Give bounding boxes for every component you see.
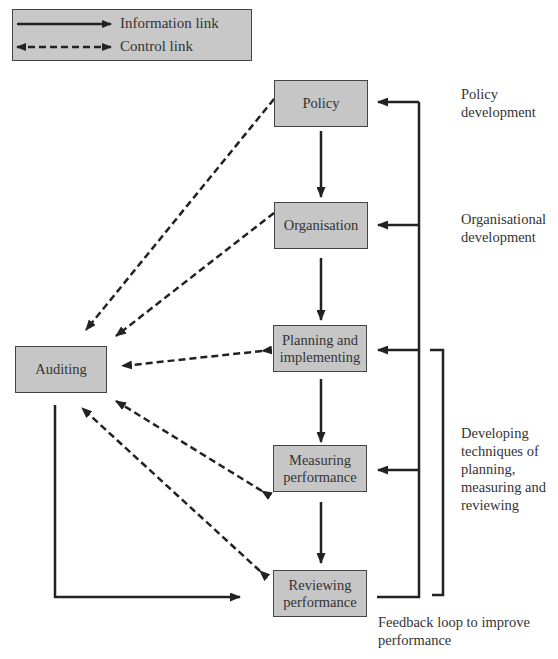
node-measuring-label-1: Measuring (283, 452, 356, 469)
node-measuring-performance: Measuring performance (273, 445, 367, 492)
node-planning-label-1: Planning and (280, 332, 361, 349)
note-line: Feedback loop to improve (378, 613, 530, 631)
note-line: Developing (461, 424, 546, 442)
note-policy-development: Policy development (461, 85, 536, 121)
node-policy: Policy (274, 80, 368, 127)
note-developing-techniques: Developing techniques of planning, measu… (461, 424, 546, 514)
node-reviewing-label-1: Reviewing (283, 577, 356, 594)
note-line: development (461, 228, 546, 246)
note-line: measuring and (461, 478, 546, 496)
information-links (55, 102, 443, 597)
control-links (82, 99, 274, 571)
note-line: Policy (461, 85, 536, 103)
node-organisation: Organisation (274, 202, 368, 249)
node-policy-label: Policy (302, 95, 339, 112)
note-line: reviewing (461, 496, 546, 514)
node-reviewing-label-2: performance (283, 594, 356, 611)
note-line: Organisational (461, 210, 546, 228)
note-line: performance (378, 631, 530, 649)
node-measuring-label-2: performance (283, 469, 356, 486)
node-auditing: Auditing (15, 346, 107, 393)
node-reviewing-performance: Reviewing performance (273, 570, 367, 617)
note-line: development (461, 103, 536, 121)
note-organisational-development: Organisational development (461, 210, 546, 246)
note-line: techniques of (461, 442, 546, 460)
node-planning-implementing: Planning and implementing (273, 325, 367, 372)
node-planning-label-2: implementing (280, 349, 361, 366)
node-organisation-label: Organisation (284, 217, 359, 234)
note-feedback-loop: Feedback loop to improve performance (378, 613, 530, 649)
node-auditing-label: Auditing (35, 361, 87, 378)
note-line: planning, (461, 460, 546, 478)
